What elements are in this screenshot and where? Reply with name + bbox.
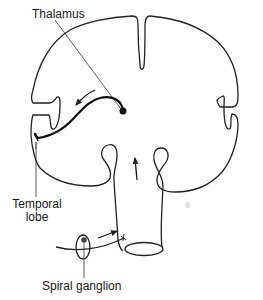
- spiral-ganglion-label: Spiral ganglion: [42, 280, 121, 293]
- diagram-canvas: ®: [0, 0, 263, 300]
- artifact-mark: ®: [185, 202, 191, 209]
- thalamus-label: Thalamus: [32, 8, 85, 21]
- spiral-ganglion-dot: [81, 237, 87, 243]
- ascending-arrow: [135, 158, 137, 180]
- nerve-entry-mark: [121, 234, 126, 241]
- pathway-direction-arrow: [76, 90, 95, 105]
- temporal-lobe-label: Temporal lobe: [10, 198, 64, 224]
- auditory-pathway-diagram: ® Thalamus Temporal lobe Spiral ganglion: [0, 0, 263, 300]
- nerve-direction-arrow: [98, 231, 117, 238]
- brainstem-base: [125, 243, 163, 256]
- temporal-lobe-label-line2: lobe: [10, 211, 64, 224]
- thalamus-leader-line: [55, 20, 121, 109]
